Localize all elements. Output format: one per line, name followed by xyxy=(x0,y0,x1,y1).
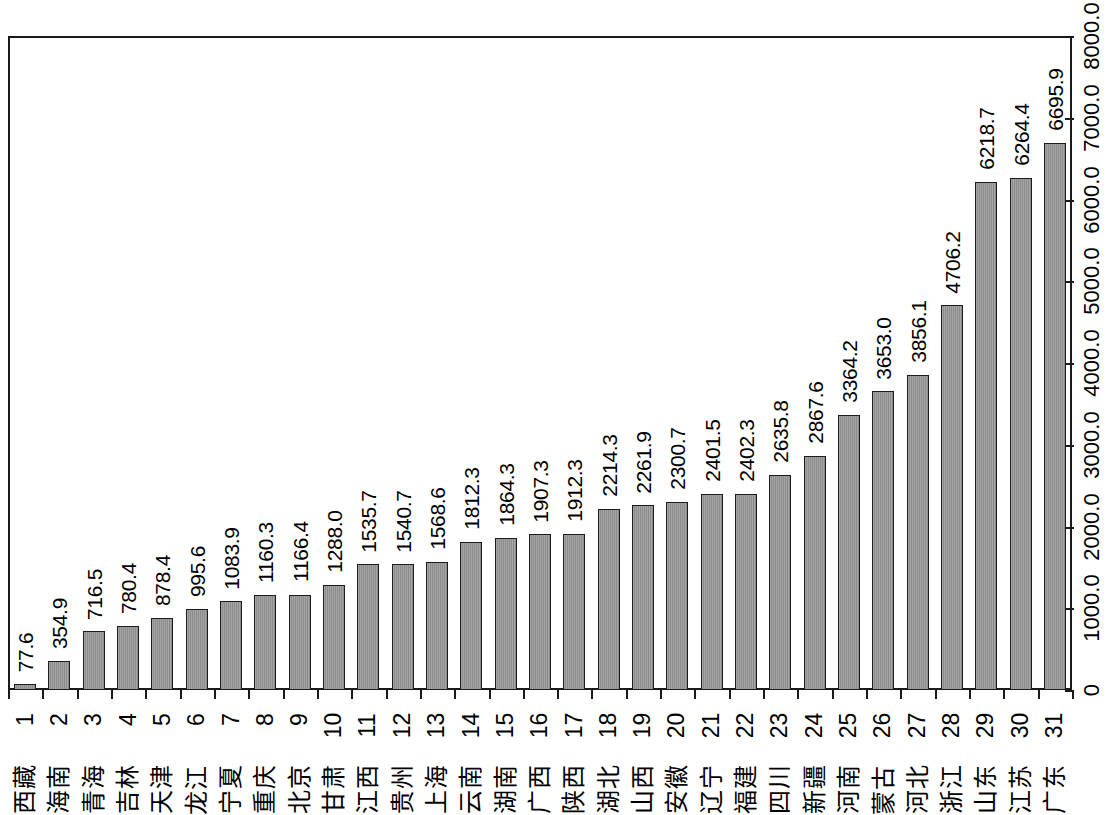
bar-2: 354.9 xyxy=(42,36,76,690)
bar-16: 1907.3 xyxy=(523,36,557,690)
bar-rect xyxy=(701,494,723,690)
y-tick xyxy=(1065,200,1074,202)
x-tick xyxy=(866,690,868,699)
bar-5: 878.4 xyxy=(145,36,179,690)
bar-rect xyxy=(1010,178,1032,690)
bar-rect xyxy=(426,562,448,690)
y-tick xyxy=(1065,36,1074,38)
bar-rect xyxy=(495,538,517,690)
bar-chart: 77.6354.9716.5780.4878.4995.61083.91160.… xyxy=(0,0,1110,815)
bar-rect xyxy=(907,375,929,690)
bar-value-label: 77.6 xyxy=(15,632,36,672)
bar-rect xyxy=(289,595,311,690)
y-tick xyxy=(1065,118,1074,120)
x-tick xyxy=(111,690,113,699)
bar-value-label: 995.6 xyxy=(186,546,207,597)
x-tick xyxy=(523,690,525,699)
bar-value-label: 2401.5 xyxy=(701,419,722,481)
x-tick xyxy=(489,690,491,699)
bar-26: 3653.0 xyxy=(866,36,900,690)
bar-value-label: 6695.9 xyxy=(1044,68,1065,130)
bar-20: 2300.7 xyxy=(660,36,694,690)
bar-24: 2867.6 xyxy=(797,36,831,690)
bar-value-label: 4706.2 xyxy=(941,231,962,293)
bar-value-label: 3364.2 xyxy=(838,341,859,403)
bar-8: 1160.3 xyxy=(248,36,282,690)
x-tick xyxy=(1003,690,1005,699)
bar-value-label: 6218.7 xyxy=(976,107,997,169)
x-tick xyxy=(248,690,250,699)
bar-25: 3364.2 xyxy=(832,36,866,690)
bar-6: 995.6 xyxy=(180,36,214,690)
bar-value-label: 1912.3 xyxy=(564,459,585,521)
y-axis-labels: 01000.02000.03000.04000.05000.06000.0700… xyxy=(1074,36,1110,690)
bar-rect xyxy=(975,182,997,690)
bar-value-label: 2402.3 xyxy=(735,419,756,481)
bar-value-label: 878.4 xyxy=(152,555,173,606)
bar-rect xyxy=(48,661,70,690)
bar-29: 6218.7 xyxy=(969,36,1003,690)
bar-rect xyxy=(632,505,654,690)
bar-rect xyxy=(838,415,860,690)
bar-rect xyxy=(220,601,242,690)
bar-13: 1568.6 xyxy=(420,36,454,690)
x-tick xyxy=(935,690,937,699)
x-axis-ticks xyxy=(8,690,1072,699)
bar-rect xyxy=(254,595,276,690)
bar-value-label: 1907.3 xyxy=(529,460,550,522)
x-tick xyxy=(591,690,593,699)
bars-layer: 77.6354.9716.5780.4878.4995.61083.91160.… xyxy=(8,36,1072,690)
y-tick xyxy=(1065,608,1074,610)
bar-rect xyxy=(83,631,105,690)
y-axis-ticks xyxy=(1065,36,1074,690)
bar-value-label: 3856.1 xyxy=(907,301,928,363)
bar-rect xyxy=(151,618,173,690)
y-tick xyxy=(1065,690,1074,692)
x-tick xyxy=(694,690,696,699)
bar-rect xyxy=(941,305,963,690)
bar-rect xyxy=(323,585,345,690)
bar-rect xyxy=(117,626,139,690)
bar-1: 77.6 xyxy=(8,36,42,690)
bar-value-label: 1160.3 xyxy=(255,522,276,583)
bar-rect xyxy=(1044,143,1066,690)
x-tick xyxy=(454,690,456,699)
bar-rect xyxy=(529,534,551,690)
bar-rect xyxy=(735,494,757,690)
x-tick xyxy=(386,690,388,699)
x-tick xyxy=(8,690,10,699)
bar-19: 2261.9 xyxy=(626,36,660,690)
bar-value-label: 1864.3 xyxy=(495,463,516,525)
bar-4: 780.4 xyxy=(111,36,145,690)
x-tick xyxy=(557,690,559,699)
x-tick xyxy=(1038,690,1040,699)
x-tick xyxy=(42,690,44,699)
y-tick xyxy=(1065,527,1074,529)
bar-rect xyxy=(598,509,620,690)
bar-value-label: 2635.8 xyxy=(770,400,791,462)
bar-value-label: 1540.7 xyxy=(392,490,413,552)
x-tick xyxy=(180,690,182,699)
bar-14: 1812.3 xyxy=(454,36,488,690)
bar-27: 3856.1 xyxy=(900,36,934,690)
x-axis-index-labels: 1234567891011121314151617181920212223242… xyxy=(8,700,1072,742)
bar-18: 2214.3 xyxy=(591,36,625,690)
bar-22: 2402.3 xyxy=(729,36,763,690)
y-tick xyxy=(1065,281,1074,283)
bar-rect xyxy=(186,609,208,690)
bar-10: 1288.0 xyxy=(317,36,351,690)
bar-value-label: 2214.3 xyxy=(598,435,619,497)
x-tick xyxy=(763,690,765,699)
bar-value-label: 2300.7 xyxy=(667,428,688,490)
bar-rect xyxy=(392,564,414,690)
bar-rect xyxy=(804,456,826,690)
bar-11: 1535.7 xyxy=(351,36,385,690)
bar-7: 1083.9 xyxy=(214,36,248,690)
bar-value-label: 1288.0 xyxy=(324,511,345,573)
bar-value-label: 1812.3 xyxy=(461,468,482,530)
x-tick xyxy=(77,690,79,699)
x-tick xyxy=(420,690,422,699)
bar-value-label: 2261.9 xyxy=(632,431,653,493)
bar-value-label: 780.4 xyxy=(118,563,139,614)
bar-12: 1540.7 xyxy=(386,36,420,690)
